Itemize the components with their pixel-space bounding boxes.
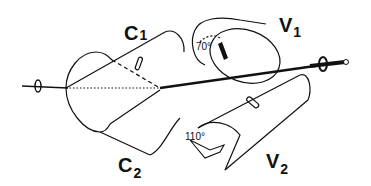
angle-bracket-110 — [190, 140, 224, 158]
cylinder-diagram: C1 C2 V1 V2 70° 110° — [0, 0, 371, 186]
label-v1: V1 — [279, 14, 301, 40]
label-c2: C2 — [118, 154, 141, 181]
angle-label-70: 70° — [196, 41, 211, 52]
cylinder-v2 — [198, 75, 310, 170]
angle-label-110: 110° — [185, 131, 205, 142]
cylinder-c2 — [66, 88, 180, 155]
v1-pointer — [218, 42, 228, 60]
right-axle-icon — [310, 57, 349, 71]
drive-rod — [160, 66, 315, 88]
label-c1: C1 — [124, 22, 147, 44]
left-axle-icon — [22, 80, 68, 92]
label-v2: V2 — [266, 150, 288, 177]
